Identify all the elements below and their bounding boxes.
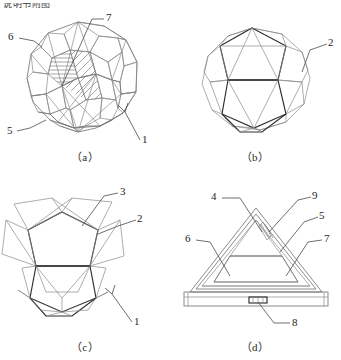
callout-number-3: 3 bbox=[120, 185, 126, 197]
sphere-c-geometry bbox=[2, 198, 124, 316]
figure-c-drawing: 3 2 1 bbox=[0, 180, 170, 360]
figure-d-caption: （d） bbox=[170, 338, 340, 354]
figure-a-caption: （a） bbox=[0, 148, 170, 164]
callout-1: 1 bbox=[118, 103, 148, 145]
callout-number-5: 5 bbox=[319, 209, 325, 221]
figure-panel-d: 4 9 5 6 7 8 （d） bbox=[170, 180, 340, 360]
patent-drawing-sheet: 说明书附图 bbox=[0, 0, 341, 360]
callout-number-2: 2 bbox=[137, 212, 143, 224]
sphere-a-geometry bbox=[27, 22, 137, 132]
callout-number-1: 1 bbox=[134, 315, 140, 327]
callout-5: 5 bbox=[280, 209, 325, 252]
callout-number-4: 4 bbox=[211, 190, 217, 202]
callout-4: 4 bbox=[211, 190, 262, 232]
callout-number-6: 6 bbox=[185, 232, 191, 244]
callout-3: 3 bbox=[82, 185, 126, 226]
callout-number-7: 7 bbox=[324, 232, 330, 244]
figure-c-caption: （c） bbox=[0, 338, 170, 354]
figure-b-caption: （b） bbox=[170, 148, 340, 164]
callout-number-9: 9 bbox=[312, 189, 318, 201]
sphere-b-geometry bbox=[202, 28, 310, 132]
callout-number-5: 5 bbox=[7, 124, 13, 136]
callout-number-2: 2 bbox=[328, 36, 334, 48]
callout-1: 1 bbox=[105, 285, 140, 327]
callout-number-6: 6 bbox=[8, 30, 14, 42]
figure-d-drawing: 4 9 5 6 7 8 bbox=[170, 180, 340, 360]
callout-number-7: 7 bbox=[106, 11, 112, 23]
callout-5: 5 bbox=[7, 120, 46, 136]
figure-panel-c: 3 2 1 （c） bbox=[0, 180, 170, 360]
callout-9: 9 bbox=[269, 189, 318, 232]
figure-panel-b: 2 （b） bbox=[170, 0, 340, 180]
callout-number-8: 8 bbox=[292, 316, 298, 328]
callout-number-1: 1 bbox=[142, 133, 148, 145]
figure-panel-a: 6 7 5 1 （a） bbox=[0, 0, 170, 180]
callout-6: 6 bbox=[8, 30, 42, 47]
